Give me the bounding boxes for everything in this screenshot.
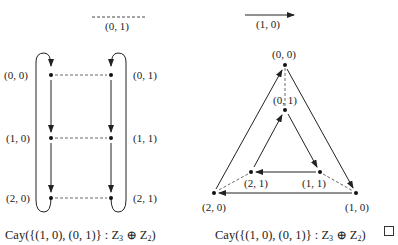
loop-edge-right — [111, 53, 126, 212]
legend-solid: (1, 0) — [245, 15, 294, 31]
node-00 — [283, 63, 287, 67]
node-label-00: (0, 0) — [4, 69, 28, 82]
edge-21-01 — [254, 115, 282, 167]
node-label-20: (2, 0) — [202, 201, 226, 214]
node-label-10: (1, 0) — [345, 201, 369, 214]
node-label-10: (1, 0) — [6, 132, 30, 145]
node-20 — [212, 191, 216, 195]
node-21 — [249, 170, 253, 174]
node-10 — [49, 136, 53, 140]
legend-dashed: (0, 1) — [92, 17, 145, 33]
node-label-01: (0, 1) — [273, 94, 297, 107]
node-11 — [109, 136, 113, 140]
node-01 — [109, 73, 113, 77]
node-label-00: (0, 0) — [272, 48, 296, 61]
node-label-20: (2, 0) — [6, 192, 30, 205]
dashed-edge-11-10 — [323, 174, 353, 191]
node-label-01: (0, 1) — [133, 69, 157, 82]
node-label-11: (1, 1) — [133, 132, 157, 145]
right-cayley-graph: (0, 0) (0, 1) (1, 0) (1, 1) (2, 0) (2, 1… — [202, 48, 369, 243]
legend-solid-label: (1, 0) — [256, 18, 280, 31]
cayley-graphs-figure: (0, 1) (1, 0) (0, 0) (0, 1) (1, 0) (1, 1… — [0, 0, 398, 245]
node-21 — [109, 196, 113, 200]
node-label-11: (1, 1) — [302, 177, 326, 190]
caption-left: Cay({(1, 0), (0, 1)} : Z3 ⊕ Z2) — [5, 228, 156, 243]
end-of-proof-square — [384, 226, 394, 236]
node-20 — [49, 196, 53, 200]
loop-edge-left — [36, 53, 51, 212]
legend-dashed-label: (0, 1) — [105, 20, 129, 33]
edge-01-11 — [288, 114, 317, 167]
edge-20-00 — [216, 70, 282, 189]
caption-right: Cay({(1, 0), (0, 1)} : Z3 ⊕ Z2) — [215, 228, 366, 243]
node-label-21: (2, 1) — [133, 192, 157, 205]
left-cayley-graph: (0, 0) (0, 1) (1, 0) (1, 1) (2, 0) (2, 1… — [4, 53, 157, 243]
node-10 — [354, 191, 358, 195]
node-11 — [318, 170, 322, 174]
node-00 — [49, 73, 53, 77]
node-label-21: (2, 1) — [244, 177, 268, 190]
node-01 — [283, 108, 287, 112]
